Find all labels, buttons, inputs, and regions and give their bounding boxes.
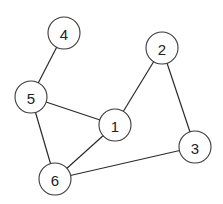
node-1: 1 xyxy=(99,109,131,141)
node-label: 1 xyxy=(111,118,119,135)
node-label: 6 xyxy=(51,172,59,189)
node-label: 5 xyxy=(27,90,35,107)
edge-3-6 xyxy=(55,147,195,179)
node-label: 4 xyxy=(60,26,68,43)
node-4: 4 xyxy=(48,17,80,49)
node-label: 2 xyxy=(158,41,166,58)
graph-diagram: 123456 xyxy=(0,0,223,204)
node-2: 2 xyxy=(146,32,178,64)
node-6: 6 xyxy=(39,163,71,195)
node-5: 5 xyxy=(15,81,47,113)
node-label: 3 xyxy=(191,140,199,157)
node-3: 3 xyxy=(179,131,211,163)
